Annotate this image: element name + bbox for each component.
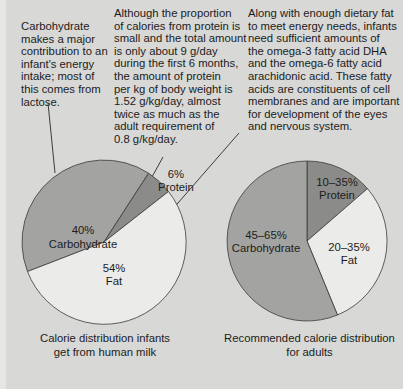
adult-carbohydrate-label: Carbohydrate [232,242,300,254]
adult-fat-label: Fat [341,254,358,266]
pie-charts: 40% Carbohydrate 6% Protein 54% Fat 10–3… [0,0,403,389]
adult-protein-pct: 10–35% [316,176,357,188]
adult-carbohydrate-pct: 45–65% [245,229,286,241]
infant-fat-pct: 54% [103,262,126,274]
infant-pie-caption: Calorie distribution infants get from hu… [30,332,180,359]
adult-fat-pct: 20–35% [328,241,369,253]
carbohydrate-leader-line [48,103,55,173]
infant-fat-label: Fat [106,275,123,287]
adult-protein-label: Protein [319,189,355,201]
adult-pie: 10–35% Protein 20–35% Fat 45–65% Carbohy… [227,161,387,321]
infant-pie: 40% Carbohydrate 6% Protein 54% Fat [22,160,194,324]
adult-pie-caption: Recommended calorie distribution for adu… [222,332,397,359]
infant-carbohydrate-pct: 40% [72,224,95,236]
infant-carbohydrate-label: Carbohydrate [49,238,117,250]
infant-protein-label: Protein [158,181,194,193]
infant-protein-pct: 6% [168,168,184,180]
